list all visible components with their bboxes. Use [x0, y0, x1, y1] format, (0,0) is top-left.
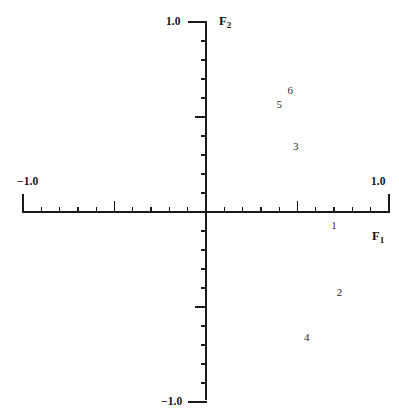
- y-axis-tick: [201, 268, 207, 269]
- y-axis-tick: [201, 135, 207, 136]
- y-axis-tick: [201, 249, 207, 250]
- x-axis-tick: [41, 207, 42, 213]
- y-axis-tick: [201, 382, 207, 383]
- x-axis-tick: [333, 207, 334, 213]
- y-axis-tick: [188, 21, 207, 23]
- x-axis-tick: [279, 207, 280, 213]
- x-axis-tick: [388, 194, 390, 213]
- y-axis-min-label: −1.0: [161, 395, 182, 407]
- data-point: 6: [287, 84, 293, 96]
- x-axis-tick: [22, 194, 24, 213]
- y-axis-tick: [201, 40, 207, 41]
- x-axis-max-label: 1.0: [371, 175, 386, 187]
- y-axis-tick: [201, 230, 207, 231]
- y-axis-max-label: 1.0: [166, 15, 181, 27]
- factor-loading-scatter-plot: −1.0 1.0 1.0 −1.0 F1 F2 123456: [0, 0, 399, 413]
- y-axis-tick: [201, 192, 207, 193]
- y-axis-tick: [201, 287, 207, 288]
- y-axis-title: F2: [219, 14, 232, 29]
- y-axis-title-text: F: [219, 14, 227, 28]
- y-axis-title-subscript: 2: [227, 20, 232, 30]
- y-axis-tick: [188, 401, 207, 403]
- x-axis-tick: [187, 207, 188, 213]
- x-axis-title-text: F: [372, 229, 380, 243]
- y-axis-tick: [201, 173, 207, 174]
- y-axis-tick: [201, 344, 207, 345]
- x-axis-tick: [169, 207, 170, 213]
- y-axis-tick: [195, 116, 207, 117]
- y-axis-tick: [201, 78, 207, 79]
- x-axis-tick: [96, 207, 97, 213]
- x-axis-tick: [224, 207, 225, 213]
- x-axis-title-subscript: 1: [380, 235, 385, 245]
- x-axis-tick: [132, 207, 133, 213]
- x-axis-tick: [59, 207, 60, 213]
- x-axis-min-label: −1.0: [17, 175, 38, 187]
- x-axis-title: F1: [372, 229, 385, 244]
- y-axis-tick: [195, 306, 207, 307]
- y-axis-tick: [201, 325, 207, 326]
- y-axis-tick: [201, 97, 207, 98]
- x-axis-tick: [370, 207, 371, 213]
- y-axis-tick: [201, 59, 207, 60]
- data-point: 2: [337, 286, 343, 298]
- x-axis-tick: [315, 207, 316, 213]
- x-axis-tick: [242, 207, 243, 213]
- data-point: 4: [304, 331, 310, 343]
- data-point: 3: [293, 140, 299, 152]
- x-axis-tick: [352, 207, 353, 213]
- x-axis-tick: [114, 201, 115, 213]
- data-point: 1: [331, 219, 337, 231]
- x-axis-tick: [77, 207, 78, 213]
- y-axis-tick: [201, 363, 207, 364]
- data-point: 5: [276, 98, 282, 110]
- x-axis-tick: [260, 207, 261, 213]
- x-axis-tick: [150, 207, 151, 213]
- x-axis-tick: [297, 201, 298, 213]
- y-axis-tick: [201, 154, 207, 155]
